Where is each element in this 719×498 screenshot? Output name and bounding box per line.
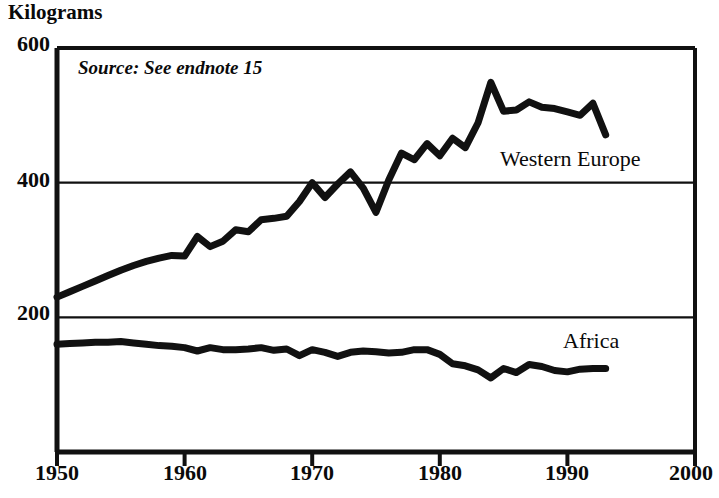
chart-figure: Kilograms 600 400 200 1950 1960 1970 198…: [0, 0, 719, 498]
axis-lines: [57, 48, 695, 452]
plot-area: [0, 0, 719, 498]
series-line-western-europe: [57, 82, 606, 297]
series-lines: [57, 82, 606, 378]
series-line-africa: [57, 342, 606, 378]
